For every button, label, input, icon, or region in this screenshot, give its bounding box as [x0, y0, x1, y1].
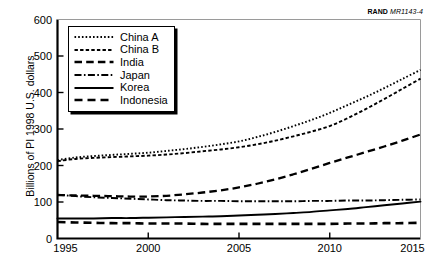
legend-item-china-b[interactable]: China B — [74, 44, 168, 57]
series-line-india — [58, 134, 421, 196]
legend-item-label: China B — [120, 44, 159, 55]
legend-line-swatch — [74, 44, 114, 56]
legend-item-korea[interactable]: Korea — [74, 81, 168, 94]
legend-item-label: Japan — [120, 70, 150, 81]
series-line-korea — [58, 202, 421, 219]
chart-figure: RANDMR1143-4 Billions of PI 1998 U.S. do… — [0, 0, 431, 268]
chart-legend: China AChina BIndiaJapanKoreaIndonesia — [68, 26, 175, 112]
legend-item-label: China A — [120, 32, 159, 43]
legend-item-china-a[interactable]: China A — [74, 31, 168, 44]
plot-area — [0, 0, 431, 268]
legend-item-label: India — [120, 57, 144, 68]
legend-item-japan[interactable]: Japan — [74, 69, 168, 82]
series-line-indonesia — [58, 222, 421, 224]
legend-line-swatch — [74, 69, 114, 81]
legend-item-india[interactable]: India — [74, 56, 168, 69]
legend-line-swatch — [74, 31, 114, 43]
series-line-japan — [58, 195, 421, 202]
legend-line-swatch — [74, 94, 114, 106]
legend-line-swatch — [74, 82, 114, 94]
legend-line-swatch — [74, 56, 114, 68]
legend-item-label: Indonesia — [120, 95, 168, 106]
legend-item-label: Korea — [120, 82, 149, 93]
legend-item-indonesia[interactable]: Indonesia — [74, 94, 168, 107]
